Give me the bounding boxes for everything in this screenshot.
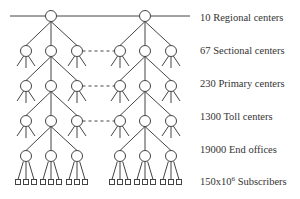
edge [163, 162, 168, 180]
edge [148, 162, 153, 180]
edge [51, 92, 77, 116]
edge [80, 162, 85, 180]
primary-center-node [21, 81, 32, 92]
subscriber-node [32, 180, 37, 185]
level-label-sectional: 67 Sectional centers [200, 45, 285, 57]
hierarchy-diagram [0, 0, 300, 199]
regional-center-node [46, 11, 57, 22]
edge [145, 127, 171, 151]
end-office-node [46, 151, 57, 162]
edge [26, 57, 51, 81]
edge [162, 91, 169, 102]
edge [120, 22, 145, 46]
edge [173, 56, 180, 67]
regional-center-node [140, 11, 151, 22]
edge [51, 22, 77, 46]
toll-center-node [46, 116, 57, 127]
primary-center-node [115, 81, 126, 92]
subscribers-count: 150x10 [200, 176, 232, 187]
level-label-subscribers: 150x106 Subscribers [200, 176, 287, 188]
subscriber-node [161, 180, 166, 185]
edge [120, 57, 145, 81]
end-office-node [115, 151, 126, 162]
sectional-center-node [72, 46, 83, 57]
edge [111, 91, 118, 102]
level-label-regional: 10 Regional centers [200, 12, 283, 24]
edge [79, 91, 86, 102]
subscriber-node [143, 180, 148, 185]
toll-center-node [21, 116, 32, 127]
edge [28, 91, 35, 102]
edge [145, 22, 171, 46]
primary-center-node [46, 81, 57, 92]
edge [28, 126, 35, 137]
subscriber-node [177, 180, 182, 185]
edge [17, 56, 24, 67]
subscriber-node [118, 180, 123, 185]
subscribers-name: Subscribers [238, 176, 287, 187]
edge [29, 162, 34, 180]
primary-center-node [72, 81, 83, 92]
level-label-end-offices: 19000 End offices [200, 144, 277, 156]
toll-center-node [115, 116, 126, 127]
primary-center-node [140, 81, 151, 92]
subscriber-node [49, 180, 54, 185]
edge [26, 92, 51, 116]
edge [51, 127, 77, 151]
edge [54, 162, 59, 180]
edge [43, 162, 48, 180]
subscriber-node [83, 180, 88, 185]
subscriber-node [16, 180, 21, 185]
edge [162, 126, 169, 137]
subscriber-node [75, 180, 80, 185]
end-office-node [21, 151, 32, 162]
edge [111, 56, 118, 67]
primary-center-node [166, 81, 177, 92]
edge [173, 91, 180, 102]
edge [28, 56, 35, 67]
edge [162, 56, 169, 67]
sectional-center-node [166, 46, 177, 57]
edge [145, 92, 171, 116]
sectional-center-node [140, 46, 151, 57]
edge [145, 57, 171, 81]
subscribers-exponent: 6 [232, 175, 236, 183]
end-office-node [72, 151, 83, 162]
edge [173, 126, 180, 137]
subscriber-node [41, 180, 46, 185]
subscriber-node [126, 180, 131, 185]
edge [174, 162, 179, 180]
toll-center-node [140, 116, 151, 127]
sectional-center-node [115, 46, 126, 57]
toll-center-node [72, 116, 83, 127]
subscriber-node [57, 180, 62, 185]
subscriber-node [67, 180, 72, 185]
subscriber-node [135, 180, 140, 185]
edge [79, 126, 86, 137]
subscriber-node [151, 180, 156, 185]
edge [120, 92, 145, 116]
edge [112, 162, 117, 180]
subscriber-node [169, 180, 174, 185]
edge [68, 56, 75, 67]
end-office-node [166, 151, 177, 162]
edge [137, 162, 142, 180]
edge [122, 56, 129, 67]
level-label-primary: 230 Primary centers [200, 78, 285, 90]
edge [17, 126, 24, 137]
edge [122, 91, 129, 102]
level-label-toll: 1300 Toll centers [200, 111, 273, 123]
toll-center-node [166, 116, 177, 127]
edge [122, 126, 129, 137]
end-office-node [140, 151, 151, 162]
edge [68, 91, 75, 102]
edge [69, 162, 74, 180]
edge [111, 126, 118, 137]
sectional-center-node [46, 46, 57, 57]
edge [26, 22, 51, 46]
edge [17, 91, 24, 102]
edge [68, 126, 75, 137]
subscriber-node [24, 180, 29, 185]
edge [79, 56, 86, 67]
edge [26, 127, 51, 151]
